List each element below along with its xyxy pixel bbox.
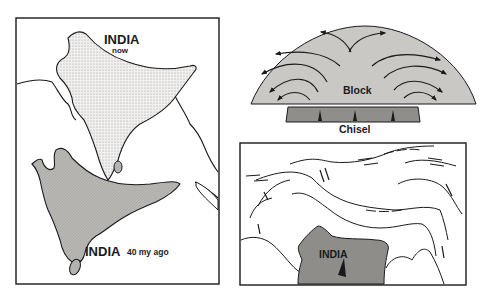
- label-chisel: Chisel: [339, 123, 371, 135]
- diagram-canvas: INDIA now INDIA 40 my ago Block Chisel: [0, 0, 485, 299]
- label-block: Block: [343, 84, 372, 96]
- india-drift-panel: INDIA now INDIA 40 my ago: [16, 18, 219, 284]
- chisel-shape: [286, 107, 420, 122]
- label-india-now-sub: now: [112, 46, 129, 55]
- label-india-past-sub: 40 my ago: [127, 247, 169, 257]
- indentation-map-panel: INDIA: [240, 143, 466, 285]
- label-india-now: INDIA: [104, 32, 140, 47]
- island-past: [114, 161, 122, 173]
- label-india-past: INDIA: [85, 244, 121, 259]
- label-india-map: INDIA: [319, 248, 348, 260]
- block-chisel-panel: Block Chisel: [251, 26, 476, 135]
